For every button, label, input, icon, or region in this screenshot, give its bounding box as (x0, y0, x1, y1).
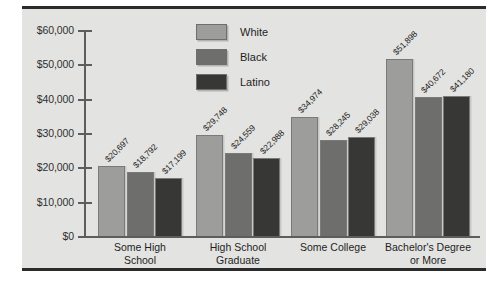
category-label-line: Bachelor's Degree (372, 241, 484, 254)
bar: $51,898 (386, 59, 413, 237)
category-label-line: School (84, 254, 196, 267)
bar: $17,199 (155, 178, 182, 237)
y-axis-tick-label: $40,000 (14, 93, 74, 105)
bar: $40,672 (415, 97, 442, 237)
bar-groups-container: $20,697$18,792$17,199$29,748$24,559$22,9… (86, 31, 478, 237)
bar: $34,974 (291, 117, 318, 237)
y-axis-tick-label-wrap: $50,000 (10, 58, 74, 70)
bar-value-label: $51,898 (390, 29, 418, 57)
category-label-line: Some High (84, 241, 196, 254)
bar-group: $51,898$40,672$41,180 (386, 31, 470, 237)
bar-value-label: $40,672 (419, 67, 447, 95)
y-axis-tick-label: $20,000 (14, 161, 74, 173)
bar-value-label: $24,559 (229, 122, 257, 150)
bar-value-label: $17,199 (159, 148, 187, 176)
bar: $41,180 (443, 96, 470, 237)
bar-value-label: $28,245 (324, 110, 352, 138)
x-axis-category-label: Bachelor's Degreeor More (372, 241, 484, 266)
y-axis-tick-label: $30,000 (14, 127, 74, 139)
x-axis-category-label: Some HighSchool (84, 241, 196, 266)
bar-value-label: $20,697 (102, 136, 130, 164)
y-axis-tick-label-wrap: $0 (10, 230, 74, 242)
bar-value-label: $34,974 (295, 87, 323, 115)
category-label-line: Graduate (182, 254, 294, 267)
category-label-line: or More (372, 254, 484, 267)
bar-group: $29,748$24,559$22,988 (196, 31, 280, 237)
bar: $28,245 (320, 140, 347, 237)
y-axis-tick-label-wrap: $40,000 (10, 93, 74, 105)
y-axis-tick-label-wrap: $10,000 (10, 196, 74, 208)
bar-value-label: $29,748 (200, 105, 228, 133)
y-axis-tick-label-wrap: $30,000 (10, 127, 74, 139)
bar-value-label: $41,180 (447, 65, 475, 93)
y-axis-tick-label-wrap: $60,000 (10, 24, 74, 36)
bar-value-label: $29,038 (352, 107, 380, 135)
bottom-divider-rule (22, 268, 486, 271)
bar-group: $20,697$18,792$17,199 (98, 31, 182, 237)
y-axis-tick-label: $50,000 (14, 58, 74, 70)
y-axis-tick-label: $10,000 (14, 196, 74, 208)
bar: $29,748 (196, 135, 223, 237)
bar: $29,038 (348, 137, 375, 237)
y-axis-tick-label: $60,000 (14, 24, 74, 36)
bar: $18,792 (127, 172, 154, 237)
bar: $22,988 (253, 158, 280, 237)
chart-figure: $60,000$50,000$40,000$30,000$20,000$10,0… (0, 0, 502, 283)
x-axis-baseline (84, 236, 480, 238)
y-axis-tick-label: $0 (14, 230, 74, 242)
bar-value-label: $18,792 (131, 142, 159, 170)
bar-group: $34,974$28,245$29,038 (291, 31, 375, 237)
bar-value-label: $22,988 (257, 128, 285, 156)
y-axis-tick-label-wrap: $20,000 (10, 161, 74, 173)
bar: $20,697 (98, 166, 125, 237)
bar: $24,559 (225, 153, 252, 237)
